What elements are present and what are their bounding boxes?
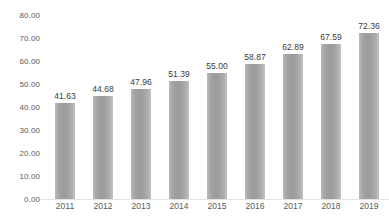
bar-group: 41.63 <box>46 101 84 199</box>
y-axis-tick-label: 20.00 <box>0 149 40 158</box>
bar <box>245 64 265 199</box>
bar <box>55 103 75 199</box>
y-axis-tick-label: 80.00 <box>0 11 40 20</box>
bar-group: 55.00 <box>198 71 236 200</box>
bar <box>169 81 189 199</box>
x-axis-tick-label: 2012 <box>84 201 122 212</box>
y-axis-tick-label: 70.00 <box>0 34 40 43</box>
x-axis-tick-label: 2019 <box>350 201 388 212</box>
y-axis-tick-label: 40.00 <box>0 103 40 112</box>
bar-group: 51.39 <box>160 79 198 199</box>
bar <box>131 89 151 199</box>
y-axis-tick-label: 10.00 <box>0 172 40 181</box>
bar-group: 47.96 <box>122 87 160 199</box>
plot-area: 41.63201144.68201247.96201351.39201455.0… <box>41 0 389 217</box>
bar <box>207 73 227 200</box>
bar <box>321 44 341 199</box>
bar <box>359 33 379 199</box>
y-axis-tick-label: 50.00 <box>0 80 40 89</box>
bar-value-label: 67.59 <box>307 32 355 42</box>
bar-group: 67.59 <box>312 42 350 199</box>
bar-chart: 80.0070.0060.0050.0040.0030.0020.0010.00… <box>0 0 389 217</box>
x-axis-tick-label: 2011 <box>46 201 84 212</box>
y-axis-tick-label: 60.00 <box>0 57 40 66</box>
y-axis: 80.0070.0060.0050.0040.0030.0020.0010.00… <box>0 0 40 217</box>
x-axis-tick-label: 2015 <box>198 201 236 212</box>
bar-value-label: 62.89 <box>269 42 317 52</box>
bar <box>283 54 303 199</box>
x-axis-line <box>41 199 389 200</box>
bar-value-label: 55.00 <box>193 61 241 71</box>
bar-group: 72.36 <box>350 31 388 199</box>
y-axis-tick-label: 0.00 <box>0 195 40 204</box>
bar-group: 62.89 <box>274 52 312 199</box>
y-axis-tick-label: 30.00 <box>0 126 40 135</box>
x-axis-tick-label: 2014 <box>160 201 198 212</box>
x-axis-tick-label: 2016 <box>236 201 274 212</box>
bar-group: 44.68 <box>84 94 122 199</box>
x-axis-tick-label: 2018 <box>312 201 350 212</box>
bar <box>93 96 113 199</box>
bar-group: 58.87 <box>236 62 274 199</box>
x-axis-tick-label: 2013 <box>122 201 160 212</box>
bar-value-label: 58.87 <box>231 52 279 62</box>
x-axis-tick-label: 2017 <box>274 201 312 212</box>
bar-value-label: 72.36 <box>345 21 389 31</box>
